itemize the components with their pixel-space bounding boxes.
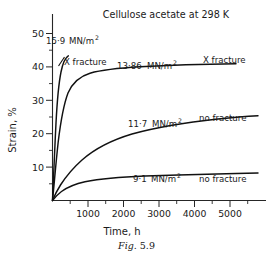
y-tick-label-30: 30 (32, 95, 44, 106)
stress-label-9-1-exponent: 2 (177, 172, 181, 179)
x-tick-label-1000: 1000 (76, 208, 100, 219)
annotation-fracture-15-9: X fracture (59, 57, 107, 67)
stress-label-13-86-value: 13·86 (117, 61, 142, 71)
stress-label-11-7-value: 11·7 (128, 119, 147, 129)
x-tick-label-3000: 3000 (147, 208, 171, 219)
figure-caption-number-wrap: 5.9 (137, 240, 155, 251)
y-tick-label-20: 20 (32, 128, 44, 139)
chart-title: Cellulose acetate at 298 K (103, 9, 230, 20)
stress-label-11-7-exponent: 2 (178, 117, 182, 124)
stress-label-15-9-value: 15·9 (46, 36, 65, 46)
x-tick-label-5000: 5000 (218, 208, 242, 219)
creep-curves-chart: Cellulose acetate at 298 K 10 20 30 40 5… (0, 0, 273, 266)
fracture-label-15-9: X fracture (64, 57, 107, 67)
y-axis-title: Strain, % (7, 107, 18, 152)
y-tick-label-10: 10 (32, 162, 44, 173)
annotation-stress-9-1: 9·1 MN/m 2 (133, 172, 181, 184)
no-fracture-label-11-7: no fracture (199, 113, 246, 123)
y-axis-major-ticks (46, 34, 53, 168)
fracture-label-13-86: X fracture (203, 55, 246, 65)
stress-label-9-1-unit: MN/m (151, 174, 176, 184)
annotation-stress-15-9: 15·9 MN/m 2 (46, 34, 99, 46)
stress-label-13-86-exponent: 2 (173, 59, 177, 66)
annotation-stress-13-86: 13·86 MN/m 2 (117, 59, 177, 71)
x-axis-major-ticks (88, 201, 230, 208)
x-tick-label-2000: 2000 (112, 208, 136, 219)
x-axis-title: Time, h (102, 226, 140, 237)
x-tick-label-4000: 4000 (183, 208, 207, 219)
y-tick-label-40: 40 (32, 61, 44, 72)
stress-label-15-9-exponent: 2 (95, 34, 99, 41)
figure-container: Cellulose acetate at 298 K 10 20 30 40 5… (0, 0, 273, 266)
no-fracture-label-9-1: no fracture (199, 174, 246, 184)
figure-caption: Fig. 5.9 (0, 240, 273, 251)
y-tick-label-50: 50 (32, 28, 44, 39)
figure-caption-label: Fig. (118, 240, 137, 251)
stress-label-11-7-unit: MN/m (152, 119, 177, 129)
annotation-stress-11-7: 11·7 MN/m 2 (128, 117, 182, 129)
figure-caption-number: 5.9 (140, 240, 155, 251)
stress-label-13-86-unit: MN/m (147, 61, 172, 71)
stress-label-9-1-value: 9·1 (133, 174, 147, 184)
stress-label-15-9-unit: MN/m (69, 36, 94, 46)
